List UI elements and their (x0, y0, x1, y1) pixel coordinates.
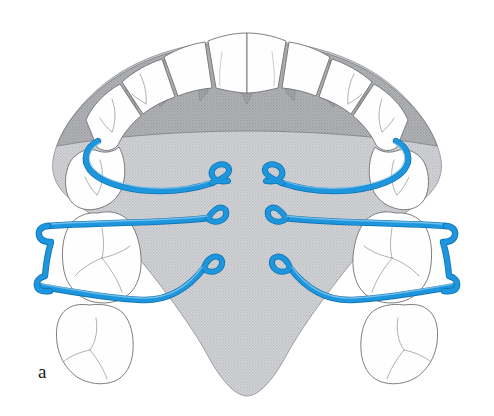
figure-root: a (0, 0, 494, 416)
tooth-UR7 (56, 304, 133, 383)
tooth-UL7 (361, 304, 438, 383)
clasp-right[interactable] (443, 226, 457, 291)
dental-arch-illustration (0, 0, 494, 416)
clasp-left[interactable] (37, 226, 51, 291)
panel-label: a (38, 362, 46, 381)
